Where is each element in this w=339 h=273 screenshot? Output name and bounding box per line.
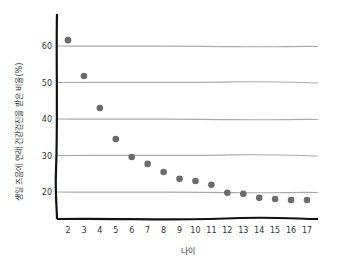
gridline-30 xyxy=(57,155,318,156)
x-tick-9: 9 xyxy=(177,226,182,235)
scatter-chart: 2030405060 234567891011121314151617 나이 생… xyxy=(0,0,339,273)
x-tick-2: 2 xyxy=(65,226,70,235)
data-point-age-13 xyxy=(240,191,247,198)
y-tick-30: 30 xyxy=(42,152,52,161)
x-tick-4: 4 xyxy=(97,226,102,235)
data-point-age-8 xyxy=(160,169,167,176)
x-tick-3: 3 xyxy=(81,226,86,235)
x-tick-10: 10 xyxy=(190,226,200,235)
x-tick-11: 11 xyxy=(206,226,216,235)
gridlines xyxy=(57,46,318,193)
gridline-40 xyxy=(57,119,318,120)
y-axis-line xyxy=(56,14,57,219)
x-tick-12: 12 xyxy=(222,226,232,235)
data-point-age-7 xyxy=(144,161,151,168)
y-tick-labels: 2030405060 xyxy=(42,42,52,197)
x-tick-5: 5 xyxy=(113,226,118,235)
x-tick-6: 6 xyxy=(129,226,134,235)
y-tick-50: 50 xyxy=(42,79,52,88)
data-point-age-3 xyxy=(81,73,88,80)
data-point-age-15 xyxy=(272,196,279,203)
x-tick-16: 16 xyxy=(286,226,296,235)
x-tick-14: 14 xyxy=(254,226,264,235)
axes xyxy=(56,14,318,219)
x-tick-17: 17 xyxy=(302,226,312,235)
data-point-age-9 xyxy=(176,176,183,183)
x-tick-8: 8 xyxy=(161,226,166,235)
data-point-age-4 xyxy=(97,105,104,112)
gridline-20 xyxy=(57,192,318,193)
data-point-age-6 xyxy=(128,154,135,161)
y-tick-40: 40 xyxy=(42,115,52,124)
data-point-age-16 xyxy=(288,197,295,204)
x-tick-7: 7 xyxy=(145,226,150,235)
x-axis-line xyxy=(57,218,318,220)
y-tick-20: 20 xyxy=(42,188,52,197)
y-axis-title: 생일 즈음에 연례 건강검진을 받은 비율(%) xyxy=(14,63,24,202)
y-tick-60: 60 xyxy=(42,42,52,51)
data-point-age-5 xyxy=(113,136,120,143)
data-point-age-10 xyxy=(192,178,199,185)
x-tick-13: 13 xyxy=(238,226,248,235)
x-axis-title: 나이 xyxy=(181,246,195,256)
data-point-age-2 xyxy=(65,37,72,44)
data-point-age-17 xyxy=(304,197,311,204)
data-point-age-12 xyxy=(224,189,231,196)
x-tick-15: 15 xyxy=(270,226,280,235)
data-point-age-14 xyxy=(256,195,263,202)
gridline-50 xyxy=(57,82,318,83)
data-point-age-11 xyxy=(208,181,215,188)
x-tick-labels: 234567891011121314151617 xyxy=(65,226,312,235)
gridline-60 xyxy=(57,46,318,47)
